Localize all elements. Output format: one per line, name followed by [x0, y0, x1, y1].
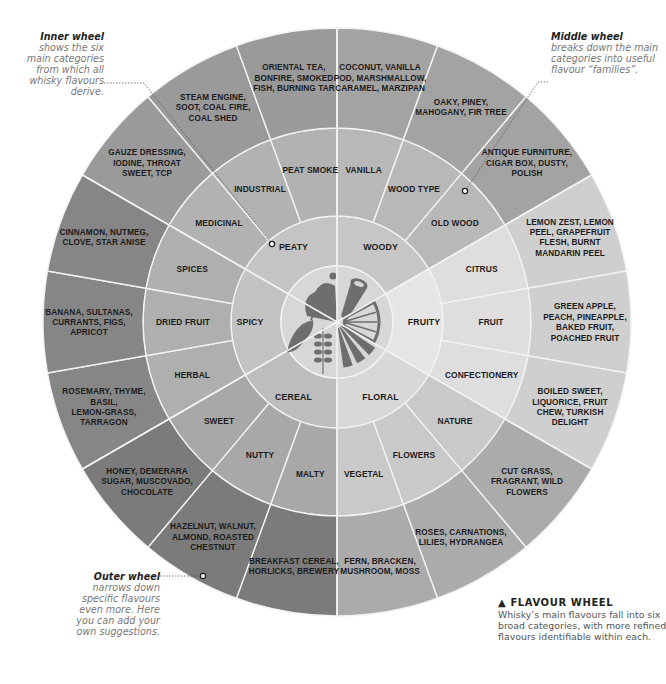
middle-label: NUTTY	[246, 450, 275, 460]
middle-leader-dot	[462, 188, 467, 193]
middle-label: FLOWERS	[393, 450, 436, 460]
caption-title: ▲ FLAVOUR WHEEL	[498, 597, 666, 608]
middle-label: SPICES	[177, 264, 209, 274]
middle-label: MEDICINAL	[195, 218, 242, 228]
outer-wheel-annotation-title: Outer wheel	[94, 571, 160, 582]
outer-label: FERN, BRACKEN,MUSHROOM, MOSS	[340, 557, 420, 576]
category-label-cereal: CEREAL	[275, 392, 312, 402]
middle-label: MALTY	[296, 469, 325, 479]
category-label-floral: FLORAL	[362, 392, 399, 402]
middle-label: PEAT SMOKE	[282, 165, 338, 175]
figure-caption: ▲ FLAVOUR WHEEL Whisky’s main flavours f…	[498, 597, 666, 642]
middle-label: HERBAL	[175, 370, 211, 380]
middle-label: SWEET	[204, 416, 235, 426]
category-label-woody: WOODY	[363, 242, 398, 252]
outer-label: COCONUT, VANILLAPOD, MARSHMALLOW,CARAMEL…	[334, 63, 427, 93]
middle-wheel-annotation: Middle wheel breaks down the main catego…	[551, 31, 661, 75]
middle-label: INDUSTRIAL	[234, 184, 286, 194]
middle-label: DRIED FRUIT	[156, 317, 211, 327]
caption-body: Whisky’s main flavours fall into six bro…	[498, 609, 666, 642]
inner-wheel-annotation-title: Inner wheel	[40, 31, 104, 42]
middle-label: WOOD TYPE	[388, 184, 440, 194]
outer-leader-dot	[200, 573, 205, 578]
category-label-peaty: PEATY	[279, 242, 308, 252]
outer-label: ORIENTAL TEA,BONFIRE, SMOKEDFISH, BURNIN…	[253, 63, 335, 93]
middle-label: FRUIT	[478, 317, 504, 327]
outer-wheel-annotation: Outer wheel narrows down specific flavou…	[60, 571, 160, 637]
outer-label: BREAKFAST CEREAL,HORLICKS, BREWERY	[249, 557, 340, 576]
category-label-fruity: FRUITY	[408, 317, 440, 327]
middle-label: VEGETAL	[344, 469, 384, 479]
category-label-spicy: SPICY	[237, 317, 264, 327]
outer-label: CINNAMON, NUTMEG,CLOVE, STAR ANISE	[59, 228, 148, 247]
triangle-marker-icon: ▲	[498, 597, 506, 608]
middle-label: VANILLA	[346, 165, 382, 175]
middle-label: CONFECTIONERY	[445, 370, 519, 380]
inner-wheel-annotation: Inner wheel shows the six main categorie…	[24, 31, 104, 97]
middle-label: CITRUS	[466, 264, 498, 274]
inner-wheel-annotation-body: shows the six main categories from which…	[27, 42, 104, 97]
middle-wheel-annotation-body: breaks down the main categories into use…	[551, 42, 658, 75]
outer-wheel-annotation-body: narrows down specific flavours even more…	[76, 582, 160, 637]
middle-wheel-annotation-title: Middle wheel	[551, 31, 623, 42]
caption-title-text: FLAVOUR WHEEL	[510, 597, 613, 608]
middle-label: NATURE	[438, 416, 473, 426]
middle-label: OLD WOOD	[431, 218, 479, 228]
outer-label: ROSES, CARNATIONS,LILIES, HYDRANGEA	[415, 528, 506, 547]
inner-leader-dot	[269, 241, 274, 246]
